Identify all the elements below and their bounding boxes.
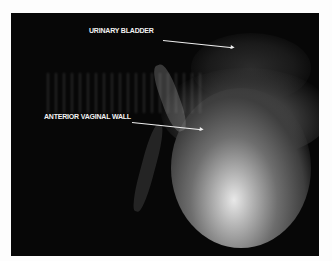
annotation-anterior-vaginal-wall: ANTERIOR VAGINAL WALL <box>44 113 131 120</box>
tissue-highlights <box>41 73 201 113</box>
surgical-photo: URINARY BLADDER ANTERIOR VAGINAL WALL <box>11 13 319 256</box>
annotation-urinary-bladder: URINARY BLADDER <box>89 27 154 34</box>
tissue-fold <box>130 123 167 214</box>
